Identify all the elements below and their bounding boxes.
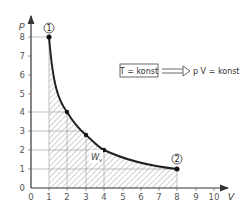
- implies-arrow-icon: [162, 66, 190, 76]
- y-tick-1: 1: [20, 164, 25, 174]
- x-axis-label: V: [228, 191, 236, 202]
- x-tick-1: 1: [46, 192, 51, 202]
- x-tick-7: 7: [156, 192, 161, 202]
- condition-text: T = konst: [119, 67, 158, 76]
- x-tick-labels: 0 1 2 3 4 5 6 7 8 9 10: [28, 192, 219, 202]
- x-tick-4: 4: [101, 192, 106, 202]
- condition-annotation: T = konst p V = konst: [119, 64, 240, 77]
- y-tick-3: 3: [20, 126, 25, 136]
- implication-text: p V = konst: [193, 67, 240, 76]
- x-tick-10: 10: [209, 192, 220, 202]
- work-label: W v: [89, 150, 103, 163]
- y-axis-label: p: [18, 19, 25, 30]
- pv-diagram: 0 1 2 3 4 5 6 7 8 9 10 V 0 1 2 3 4 5 6 7…: [0, 0, 250, 218]
- x-tick-8: 8: [174, 192, 179, 202]
- state-2-label: 2: [174, 155, 179, 164]
- y-tick-labels: 0 1 2 3 4 5 6 7 8: [20, 32, 25, 193]
- state-1-marker: 1: [44, 23, 54, 33]
- x-tick-2: 2: [64, 192, 69, 202]
- x-tick-6: 6: [138, 192, 143, 202]
- y-tick-2: 2: [20, 145, 25, 155]
- state-1-label: 1: [46, 24, 51, 33]
- y-tick-4: 4: [20, 107, 25, 117]
- x-tick-0: 0: [28, 192, 33, 202]
- y-tick-0: 0: [20, 183, 25, 193]
- state-2-marker: 2: [172, 154, 182, 164]
- y-tick-7: 7: [20, 51, 25, 61]
- y-tick-6: 6: [20, 70, 25, 80]
- x-tick-3: 3: [83, 192, 88, 202]
- y-tick-5: 5: [20, 89, 25, 99]
- y-tick-8: 8: [20, 32, 25, 42]
- x-tick-9: 9: [193, 192, 198, 202]
- x-tick-5: 5: [120, 192, 125, 202]
